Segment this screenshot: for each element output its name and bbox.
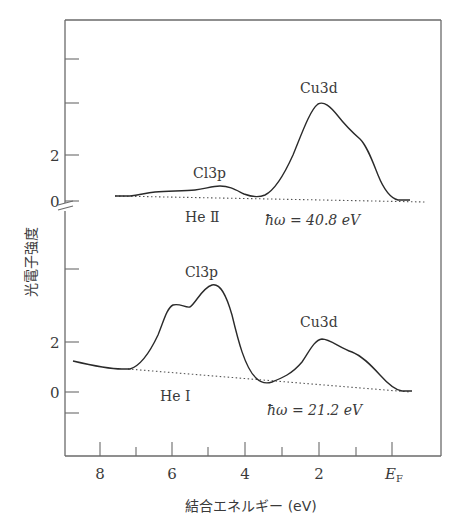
y-tick-label-lower-2: 2 — [50, 334, 60, 352]
lower-spectrum-curve — [73, 285, 412, 391]
upper-source-label: He Ⅱ — [185, 209, 219, 225]
x-axis-title: 結合エネルギー (eV) — [185, 498, 317, 514]
upper-photon-energy-label: ħω = 40.8 eV — [265, 212, 362, 228]
lower-peak-label-cl3p: Cl3p — [185, 264, 218, 280]
y-tick-label-upper-0: 0 — [50, 193, 60, 211]
x-ticks — [100, 442, 392, 456]
x-tick-label-8: 8 — [95, 465, 105, 483]
upper-peak-label-cu3d: Cu3d — [300, 80, 338, 96]
x-tick-label-fermi: EF — [384, 465, 403, 484]
y-ticks-upper — [65, 59, 79, 201]
photoelectron-spectrum-chart: 2 0 2 0 8 6 4 2 EF 結合エネルギー (eV) 光電子強度 Cl… — [0, 0, 458, 522]
upper-spectrum-curve — [115, 103, 410, 200]
x-tick-label-4: 4 — [240, 465, 250, 483]
y-axis-title: 光電子強度 — [23, 227, 39, 297]
upper-peak-label-cl3p: Cl3p — [193, 165, 226, 181]
lower-source-label: He Ⅰ — [160, 388, 190, 404]
lower-panel-he1: Cl3p Cu3d He Ⅰ ħω = 21.2 eV — [73, 264, 412, 418]
x-tick-label-2: 2 — [314, 465, 324, 483]
lower-peak-label-cu3d: Cu3d — [300, 314, 338, 330]
y-ticks-lower — [65, 269, 79, 413]
y-tick-label-lower-0: 0 — [50, 384, 60, 402]
upper-panel-he2: Cl3p Cu3d He Ⅱ ħω = 40.8 eV — [115, 80, 425, 228]
plot-frame — [58, 20, 441, 456]
lower-photon-energy-label: ħω = 21.2 eV — [267, 402, 364, 418]
upper-background-line — [115, 196, 425, 202]
x-tick-label-6: 6 — [167, 465, 177, 483]
axis-break-mark — [58, 206, 73, 210]
y-tick-label-upper-2: 2 — [50, 147, 60, 165]
